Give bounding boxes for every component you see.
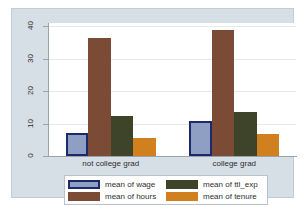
gridline — [49, 124, 296, 125]
legend-swatch — [68, 192, 100, 201]
gridline — [49, 91, 296, 92]
y-axis-tick-mark — [43, 26, 48, 27]
y-axis-tick-label: 40 — [26, 16, 35, 36]
legend-label: mean of hours — [105, 192, 156, 201]
y-axis-tick-mark — [43, 124, 48, 125]
y-axis-line — [48, 23, 49, 157]
bar — [133, 138, 156, 156]
bar — [212, 30, 235, 156]
legend-entry: mean of hours — [68, 192, 166, 201]
bar — [257, 134, 280, 156]
bar — [189, 121, 212, 156]
bar — [66, 133, 89, 156]
y-axis-tick-label: 0 — [26, 146, 35, 166]
y-axis-tick-label: 10 — [26, 113, 35, 133]
gridline — [49, 59, 296, 60]
bar-chart-screenshot: 010203040 not college gradcollege grad m… — [0, 0, 305, 205]
legend: mean of wagemean of ttl_expmean of hours… — [64, 175, 268, 205]
legend-label: mean of tenure — [203, 192, 257, 201]
x-axis-category-label: college grad — [173, 159, 297, 168]
legend-label: mean of wage — [105, 180, 155, 189]
y-axis-tick-label: 30 — [26, 48, 35, 68]
legend-swatch — [166, 192, 198, 201]
legend-swatch — [68, 180, 100, 189]
legend-entry: mean of wage — [68, 180, 166, 189]
gridline — [49, 26, 296, 27]
x-axis-category-label: not college grad — [49, 159, 173, 168]
bar — [88, 38, 111, 156]
y-axis-tick-mark — [43, 59, 48, 60]
y-axis-tick-mark — [43, 91, 48, 92]
bar — [234, 112, 257, 156]
x-axis-line — [48, 156, 297, 157]
legend-swatch — [166, 180, 198, 189]
legend-entry: mean of tenure — [166, 192, 264, 201]
legend-label: mean of ttl_exp — [203, 180, 258, 189]
legend-entry: mean of ttl_exp — [166, 180, 264, 189]
y-axis-tick-mark — [43, 156, 48, 157]
bar — [111, 116, 134, 156]
y-axis-tick-label: 20 — [26, 81, 35, 101]
plot-area — [49, 23, 296, 156]
graph-region: 010203040 not college gradcollege grad m… — [11, 8, 294, 198]
